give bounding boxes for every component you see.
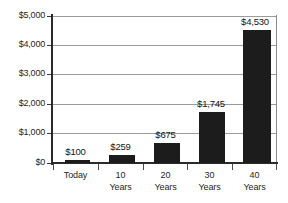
x-axis-label-line1: 20 [161,170,171,180]
y-axis-tick-label: $3,000 [1,69,45,78]
x-axis-label-10-years: 10 Years [98,170,143,193]
bar-30-years[interactable] [199,112,225,163]
x-axis-label-line2: Years [98,182,143,194]
x-axis-label-line2: Years [143,182,188,194]
bar-value-label: $1,745 [182,99,240,109]
y-axis-tick-label: $4,000 [1,40,45,49]
x-axis-label-line2: Years [187,182,232,194]
x-axis-label-line1: Today [64,170,88,180]
bar-20-years[interactable] [154,143,180,163]
x-axis-label-20-years: 20 Years [143,170,188,193]
x-axis-label-today: Today [53,170,98,182]
bar-today[interactable] [65,160,90,163]
plot-area [53,16,277,163]
y-axis-tick-label: $5,000 [1,11,45,20]
y-axis-tick-label: $1,000 [1,128,45,137]
bar-value-label: $675 [140,130,191,140]
bar-value-label: $100 [50,147,101,157]
x-axis-label-line1: 10 [116,170,126,180]
bar-value-label: $259 [95,142,146,152]
x-axis-label-line1: 40 [250,170,260,180]
x-axis-label-line1: 30 [205,170,215,180]
bar-10-years[interactable] [109,155,135,163]
x-axis-label-30-years: 30 Years [187,170,232,193]
bar-40-years[interactable] [243,30,271,163]
bar-value-label: $4,530 [226,17,284,27]
bar-chart: $5,000 $4,000 $3,000 $2,000 $1,000 $0 $1… [0,0,288,203]
y-axis-tick-label: $0 [1,158,45,167]
x-axis-label-40-years: 40 Years [232,170,277,193]
y-axis-labels: $5,000 $4,000 $3,000 $2,000 $1,000 $0 [0,0,45,203]
x-axis-label-line2: Years [232,182,277,194]
y-axis-tick-label: $2,000 [1,99,45,108]
